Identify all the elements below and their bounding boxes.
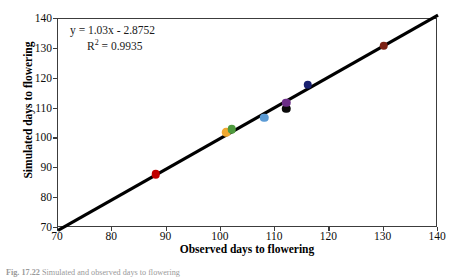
plot-frame: y = 1.03x - 2.8752 R2 = 0.9935 <box>57 18 437 227</box>
point-navy <box>303 80 312 89</box>
x-tick-label: 80 <box>106 230 118 242</box>
y-axis-title: Simulated days to flowering <box>22 20 34 200</box>
r-squared-value: R2 = 0.9935 <box>70 38 155 53</box>
x-tick-label: 100 <box>211 230 228 242</box>
x-tick-label: 120 <box>320 230 337 242</box>
regression-annotation: y = 1.03x - 2.8752 R2 = 0.9935 <box>70 24 155 53</box>
r-squared-number: = 0.9935 <box>99 39 143 51</box>
x-tick-label: 140 <box>428 230 445 242</box>
regression-equation: y = 1.03x - 2.8752 <box>70 24 155 38</box>
point-green <box>227 125 236 134</box>
chart-area: 708090100110120130140 708090100110120130… <box>0 0 464 258</box>
r-squared-prefix: R <box>87 39 95 51</box>
point-purple <box>282 98 291 107</box>
x-tick-label: 90 <box>160 230 172 242</box>
point-red <box>151 170 160 179</box>
point-darkred <box>379 42 388 51</box>
figure-caption-text: Simulated and observed days to flowering <box>42 268 180 277</box>
plot-inner: y = 1.03x - 2.8752 R2 = 0.9935 <box>58 19 436 226</box>
y-tick-label: 70 <box>22 221 52 233</box>
x-tick-label: 130 <box>374 230 391 242</box>
x-tick-label: 70 <box>51 230 63 242</box>
figure-container: 708090100110120130140 708090100110120130… <box>0 0 464 280</box>
x-axis-title: Observed days to flowering <box>57 243 437 255</box>
point-lightblue <box>260 113 269 122</box>
figure-caption: Fig. 17.22 Simulated and observed days t… <box>6 268 458 280</box>
figure-caption-label: Fig. 17.22 <box>6 268 40 277</box>
x-tick-label: 110 <box>266 230 283 242</box>
